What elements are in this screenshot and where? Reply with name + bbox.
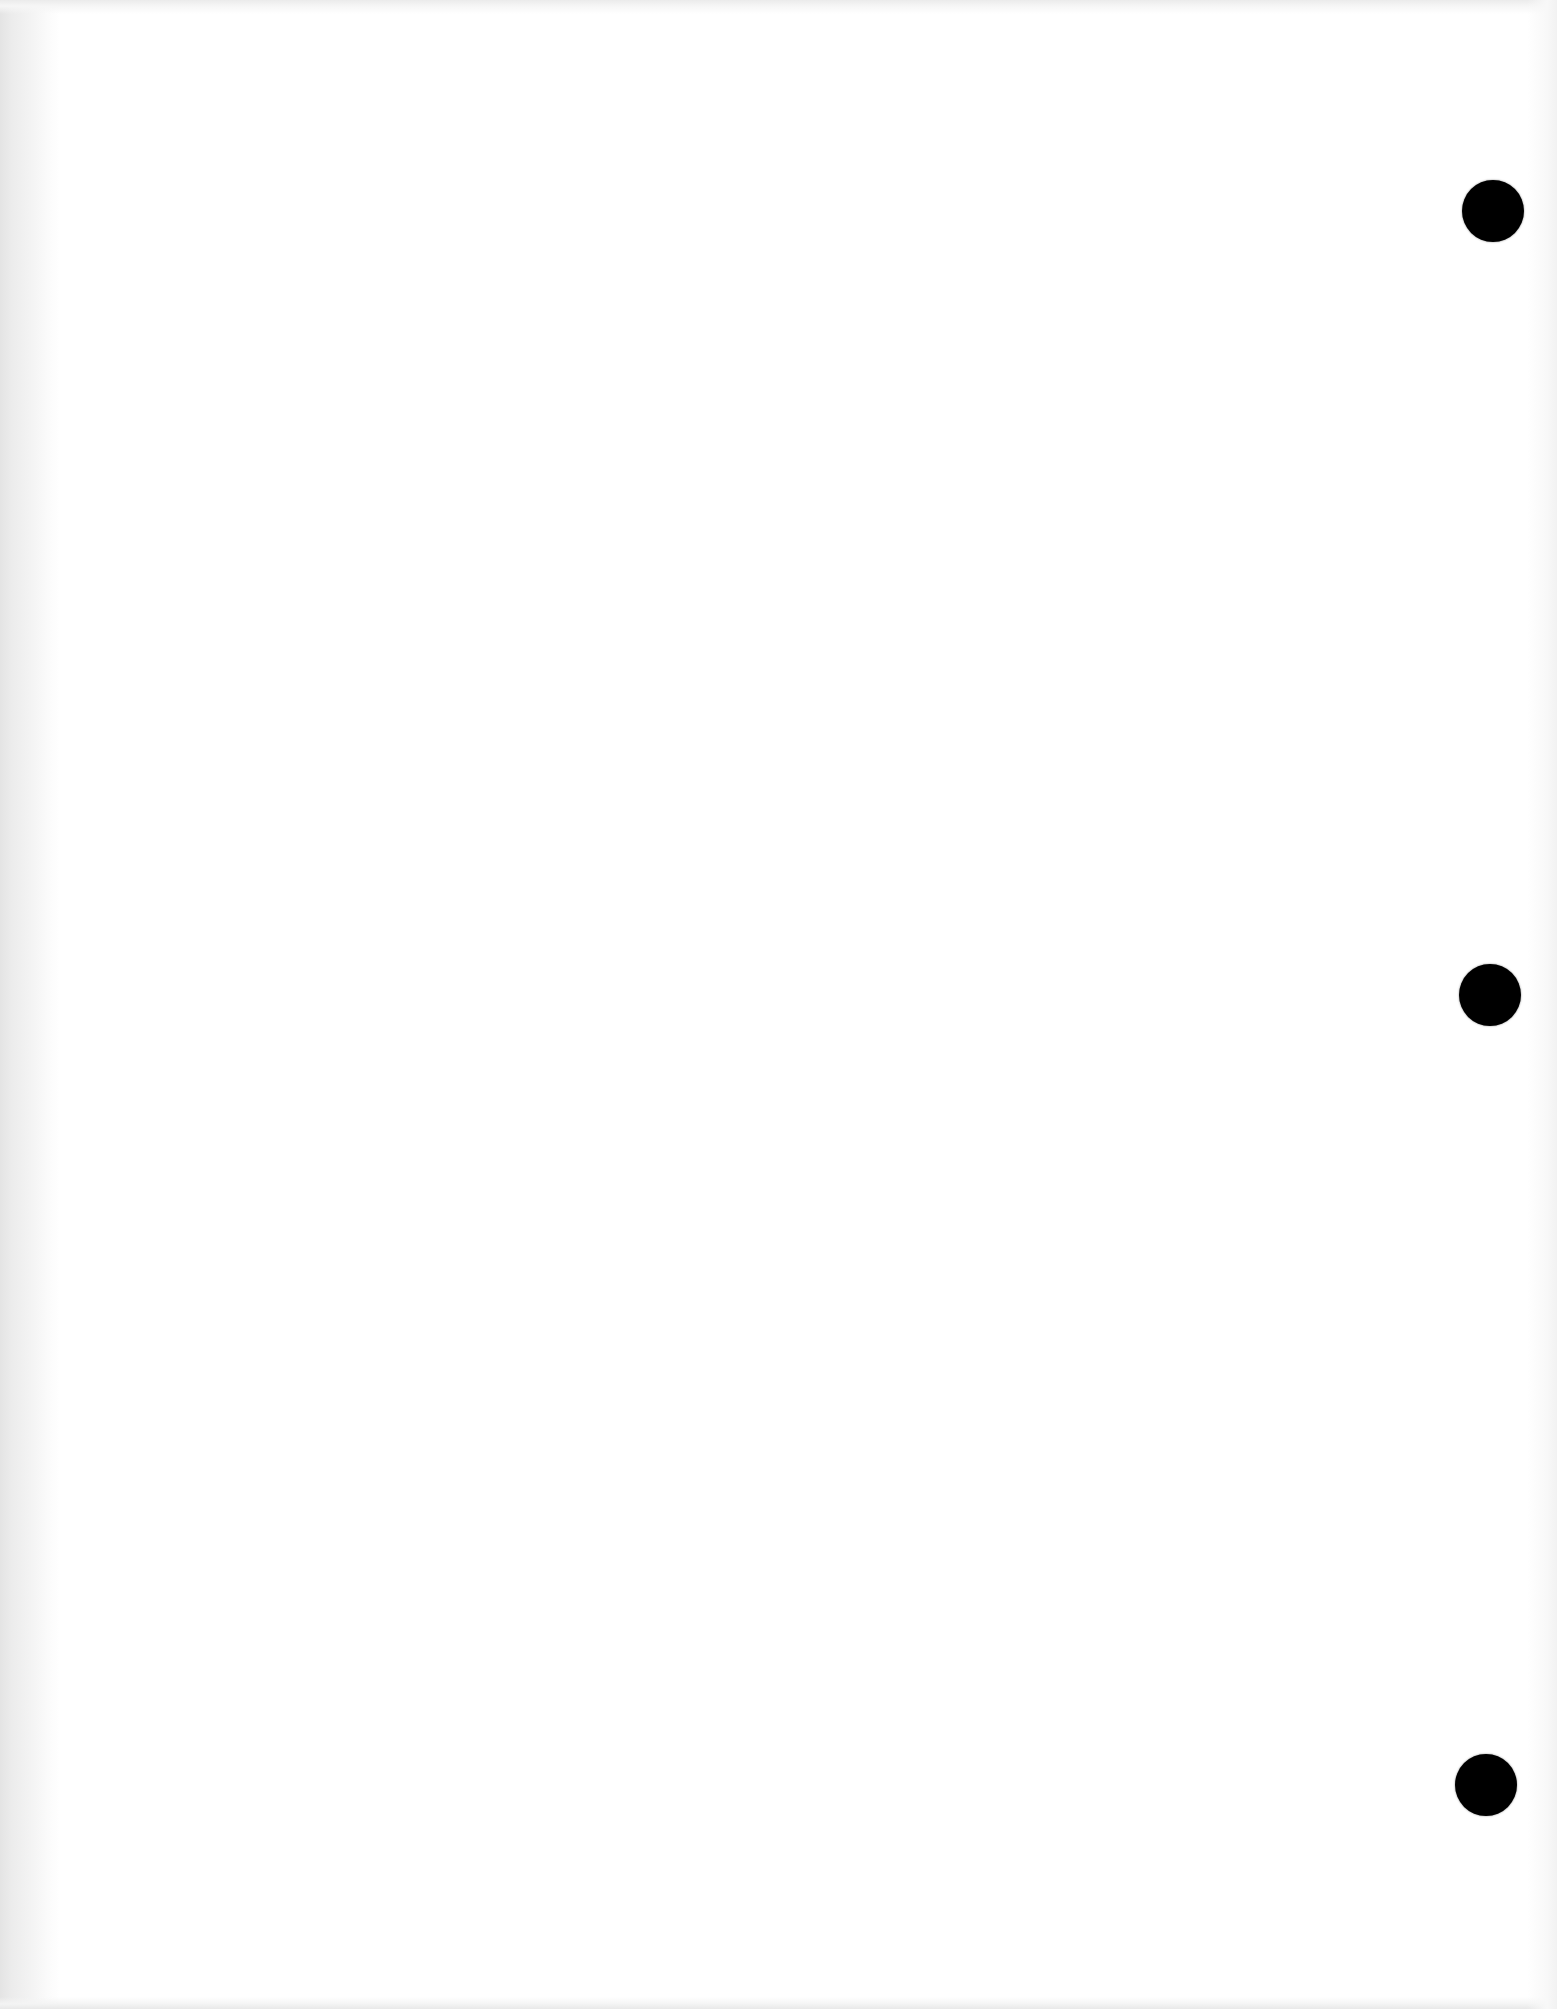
scan-shadow-left xyxy=(0,0,60,2009)
scan-shadow-top xyxy=(0,0,1557,14)
punch-hole-top xyxy=(1462,180,1524,242)
scan-shadow-right xyxy=(1527,0,1557,2009)
blank-page xyxy=(0,0,1557,2009)
punch-hole-bottom xyxy=(1455,1754,1517,1816)
scan-shadow-bottom xyxy=(0,1997,1557,2009)
punch-hole-middle xyxy=(1459,964,1521,1026)
